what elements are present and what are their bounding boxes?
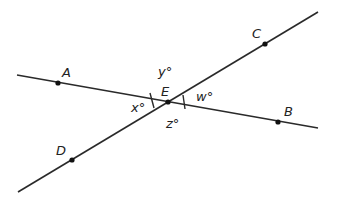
label-d: D — [56, 143, 66, 158]
angle-label-y: y° — [157, 64, 172, 79]
intersecting-lines-figure: A B C D E y° x° w° z° — [0, 0, 337, 204]
angle-label-z: z° — [165, 116, 179, 131]
label-e: E — [161, 84, 170, 99]
point-c — [262, 41, 267, 46]
angle-x-tick-mark — [150, 93, 154, 108]
angle-w-tick-mark — [183, 95, 185, 109]
label-c: C — [252, 26, 262, 41]
angle-label-x: x° — [130, 100, 145, 115]
point-a — [55, 80, 60, 85]
point-e — [165, 99, 170, 104]
point-d — [69, 157, 74, 162]
diagram-canvas: A B C D E y° x° w° z° — [0, 0, 337, 204]
angle-label-w: w° — [196, 89, 213, 104]
point-b — [275, 119, 280, 124]
label-b: B — [284, 104, 293, 119]
label-a: A — [61, 65, 71, 80]
